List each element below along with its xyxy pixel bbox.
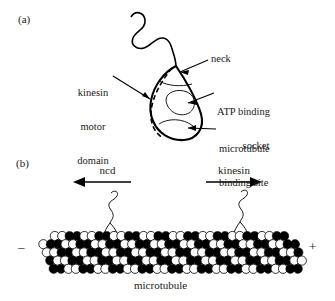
microtubule-caption: microtubule [134,280,187,292]
label-atp-binding-socket-line-1: ATP binding [217,106,295,117]
label-microtubule-binding-site-line-2: binding site [219,177,301,188]
label-microtubule-binding-site-line-1: microtubule [219,143,301,154]
label-neck: neck [211,53,231,64]
kinesin-tail-path [131,13,176,67]
microtubule-binding-site-arc [159,120,193,126]
tubulin-subunit-light [297,256,306,265]
label-kinesin: kinesin [208,165,260,177]
plus-end-marker: + [309,240,316,254]
label-kinesin-motor-domain-line-1: kinesin [62,87,124,98]
tubulin-subunit-dark [290,240,299,249]
leader-neck [180,60,208,75]
label-ncd: ncd [85,165,130,177]
label-kinesin-motor-domain-line-2: motor [62,121,124,132]
microtubule-lattice [39,231,307,273]
tubulin-subunit-dark [293,264,302,273]
panel-b-tag: (b) [16,158,29,170]
figure-root: (a) [0,0,335,301]
minus-end-marker: – [18,240,25,254]
tubulin-subunit-dark [280,231,289,240]
